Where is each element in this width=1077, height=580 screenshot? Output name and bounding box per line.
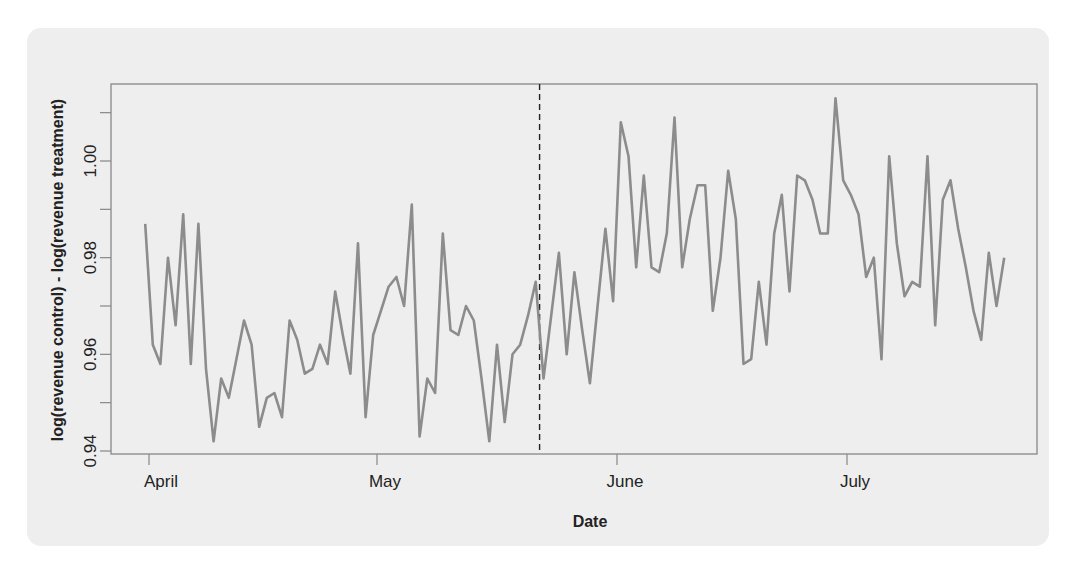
y-tick-label: 0.94 bbox=[81, 434, 100, 467]
line-chart: 0.940.960.981.00 AprilMayJuneJuly Date l… bbox=[0, 0, 1077, 580]
x-tick-label: April bbox=[144, 472, 178, 491]
x-axis-title: Date bbox=[573, 513, 608, 530]
y-axis-title: log(revenue control) - log(revenue treat… bbox=[49, 99, 66, 441]
y-tick-label: 0.96 bbox=[81, 338, 100, 371]
x-tick-label: June bbox=[607, 472, 644, 491]
x-tick-label: July bbox=[840, 472, 871, 491]
x-tick-label: May bbox=[369, 472, 402, 491]
plot-area bbox=[111, 84, 1037, 454]
x-axis: AprilMayJuneJuly bbox=[144, 454, 871, 491]
y-tick-label: 0.98 bbox=[81, 241, 100, 274]
y-axis: 0.940.960.981.00 bbox=[81, 113, 111, 468]
data-line bbox=[145, 98, 1004, 441]
y-tick-label: 1.00 bbox=[81, 144, 100, 177]
